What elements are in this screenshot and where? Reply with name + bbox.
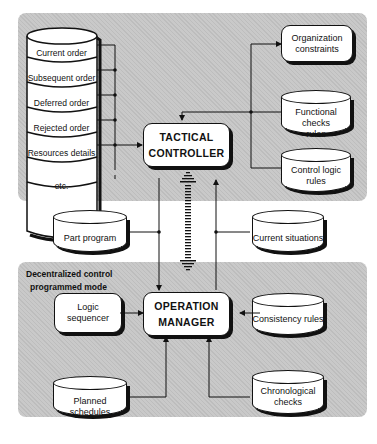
- part-program-cylinder: Part program: [53, 210, 127, 255]
- stack-item-subsequent-order: Subsequent order: [26, 66, 97, 91]
- consistency-rules-cylinder: Consistency rules: [252, 293, 324, 338]
- organization-constraints-line1: Organization: [291, 33, 342, 44]
- functional-checks-line1: Functional checks: [281, 107, 351, 129]
- panel-label-line1: Decentralized control: [26, 268, 112, 281]
- control-logic-line1: Control logic: [281, 165, 351, 176]
- operation-manager-box: OPERATION MANAGER: [143, 292, 230, 336]
- control-logic-line2: rules: [281, 176, 351, 187]
- tactical-controller-line1: TACTICAL: [159, 129, 213, 145]
- stack-item-current-order: Current order: [26, 41, 97, 66]
- chronological-checks-cylinder: Chronological checks: [252, 370, 324, 418]
- tactical-controller-box: TACTICAL CONTROLLER: [143, 123, 230, 167]
- operation-manager-line2: MANAGER: [158, 314, 214, 330]
- stack-item-etc: etc.: [26, 174, 97, 199]
- order-database-stack: Current order Subsequent order Deferred …: [26, 26, 97, 241]
- consistency-rules-label: Consistency rules: [252, 314, 324, 325]
- part-program-label: Part program: [53, 233, 127, 244]
- chronological-checks-line2: checks: [252, 397, 324, 408]
- stack-item-rejected-order: Rejected order: [26, 116, 97, 141]
- stack-item-deferred-order: Deferred order: [26, 91, 97, 116]
- organization-constraints-box: Organization constraints: [281, 25, 353, 62]
- control-logic-rules-cylinder: Control logic rules: [281, 148, 351, 193]
- current-situations-cylinder: Current situations: [252, 210, 324, 255]
- functional-checks-line2: rules: [281, 129, 351, 140]
- functional-checks-rules-cylinder: Functional checks rules: [281, 90, 351, 135]
- planned-schedules-cylinder: Planned schedules: [53, 376, 127, 421]
- logic-sequencer-line2: sequencer: [67, 313, 109, 324]
- logic-sequencer-box: Logic sequencer: [54, 293, 122, 333]
- organization-constraints-line2: constraints: [295, 44, 339, 55]
- stack-item-resources-details: Resources details: [26, 141, 97, 166]
- tactical-controller-line2: CONTROLLER: [149, 145, 225, 161]
- chronological-checks-line1: Chronological: [252, 386, 324, 397]
- logic-sequencer-line1: Logic: [77, 302, 99, 313]
- planned-schedules-label: Planned schedules: [53, 396, 127, 418]
- current-situations-label: Current situations: [252, 233, 324, 244]
- operation-manager-line1: OPERATION: [154, 298, 218, 314]
- decentralized-panel-label: Decentralized control programmed mode: [26, 268, 112, 294]
